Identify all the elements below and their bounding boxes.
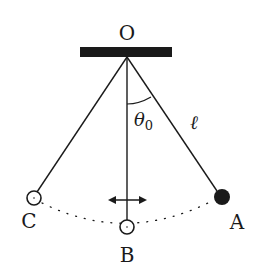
string-to-c [37, 57, 127, 192]
label-a: A [229, 210, 245, 234]
length-label: ℓ [190, 111, 198, 133]
bob-c-center [33, 197, 35, 199]
pendulum-svg: O θ0 ℓ C B A [0, 0, 262, 278]
label-b: B [120, 243, 135, 267]
angle-label: θ0 [134, 109, 153, 133]
angle-arc [127, 97, 151, 104]
bob-a [214, 189, 230, 205]
bob-b-center [126, 226, 128, 228]
label-c: C [21, 209, 36, 233]
pendulum-diagram: O θ0 ℓ C B A [0, 0, 262, 278]
ceiling-support [80, 47, 172, 57]
pivot-label-o: O [119, 21, 135, 45]
